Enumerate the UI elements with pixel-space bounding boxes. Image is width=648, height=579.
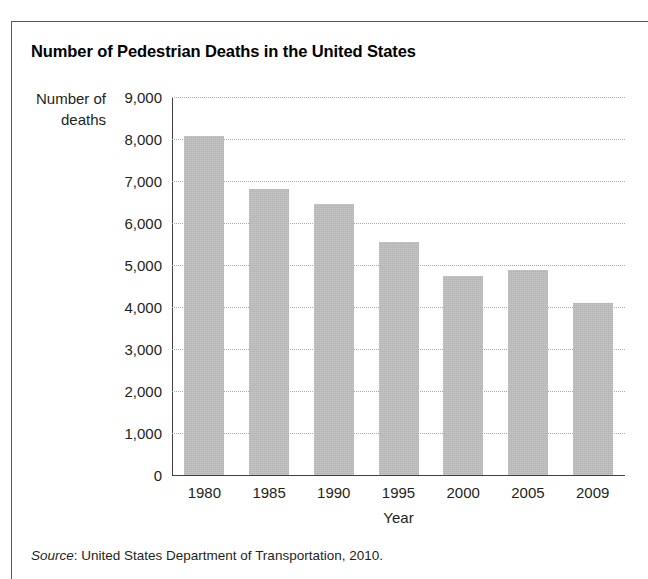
y-axis-line	[172, 97, 173, 475]
y-axis-tick-label: 1,000	[100, 426, 162, 441]
bar	[249, 189, 289, 475]
x-axis-tick-label: 2005	[496, 484, 560, 501]
gridline	[172, 223, 625, 224]
source-note: Source: United States Department of Tran…	[31, 548, 383, 563]
y-axis-tick-label: 0	[100, 468, 162, 483]
bar	[443, 276, 483, 476]
figure-border-left	[11, 21, 12, 579]
x-axis-tick-label: 2000	[431, 484, 495, 501]
y-axis-tick-label: 4,000	[100, 300, 162, 315]
chart-title: Number of Pedestrian Deaths in the Unite…	[31, 42, 416, 61]
gridline	[172, 97, 625, 98]
x-axis-tick-label: 2009	[561, 484, 625, 501]
y-axis-tick-label: 5,000	[100, 258, 162, 273]
y-axis-tick-label: 8,000	[100, 132, 162, 147]
plot-area	[172, 97, 625, 475]
bar	[379, 242, 419, 475]
y-axis-tick-label: 9,000	[100, 90, 162, 105]
source-text: : United States Department of Transporta…	[74, 548, 383, 563]
bar	[184, 136, 224, 475]
gridline	[172, 139, 625, 140]
x-axis-tick-label: 1985	[237, 484, 301, 501]
figure-container: Number of Pedestrian Deaths in the Unite…	[0, 0, 648, 579]
x-axis-tick-label: 1990	[302, 484, 366, 501]
y-axis-label: Number of deaths	[16, 88, 106, 130]
x-axis-tick-label: 1995	[367, 484, 431, 501]
x-axis-tick-label: 1980	[172, 484, 236, 501]
figure-border-top	[11, 21, 648, 22]
y-axis-tick-label: 2,000	[100, 384, 162, 399]
y-axis-tick-label: 7,000	[100, 174, 162, 189]
source-label: Source	[31, 548, 74, 563]
bar	[573, 303, 613, 475]
gridline	[172, 181, 625, 182]
x-axis-line	[172, 475, 625, 476]
y-axis-tick-label: 6,000	[100, 216, 162, 231]
bar	[314, 204, 354, 475]
bar	[508, 270, 548, 475]
y-axis-tick-label: 3,000	[100, 342, 162, 357]
x-axis-label: Year	[172, 509, 625, 526]
